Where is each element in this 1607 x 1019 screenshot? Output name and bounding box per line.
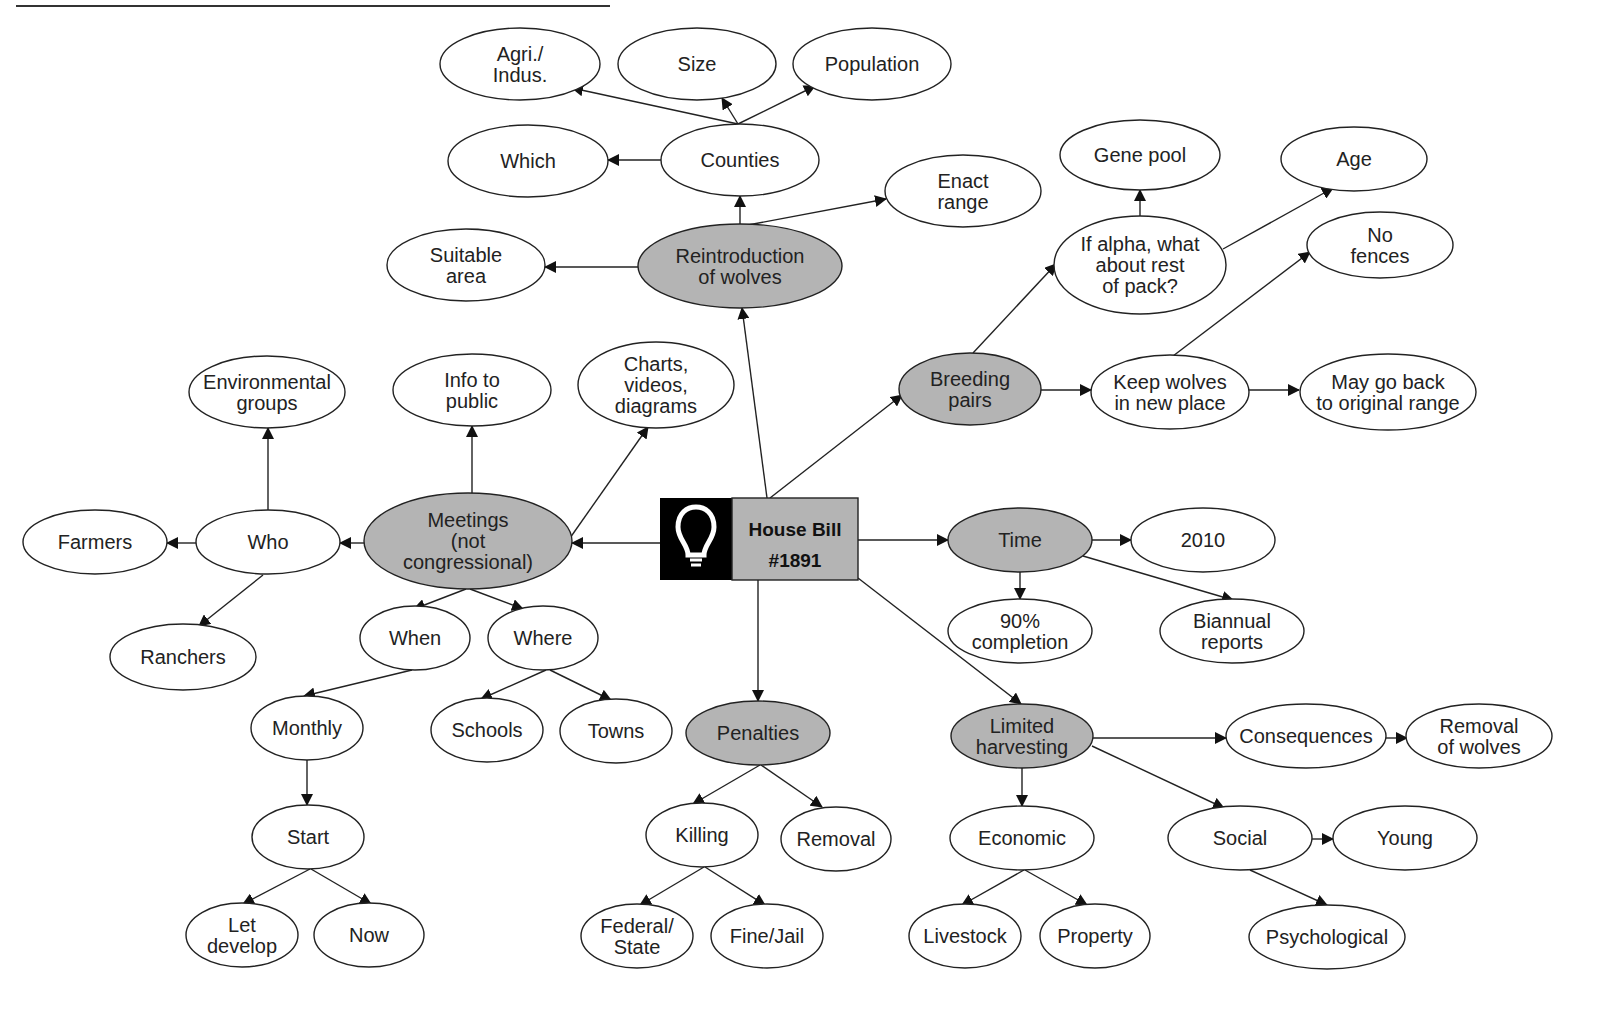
node-towns[interactable]: Towns	[560, 699, 672, 763]
node-breeding-pairs[interactable]: Breedingpairs	[899, 353, 1041, 425]
node-population[interactable]: Population	[793, 28, 951, 100]
node-label: Farmers	[58, 531, 132, 553]
edge-limited_harvesting-to-social	[1092, 746, 1224, 808]
node-label: Time	[998, 529, 1042, 551]
node-label: to original range	[1316, 392, 1459, 414]
node-label: Size	[678, 53, 717, 75]
node-killing[interactable]: Killing	[646, 803, 758, 867]
node-gene-pool[interactable]: Gene pool	[1060, 120, 1220, 190]
node-label: Environmental	[203, 371, 331, 393]
node-livestock[interactable]: Livestock	[909, 904, 1021, 968]
node-label: Federal/	[600, 915, 674, 937]
edge-start-to-let_develop	[243, 869, 310, 904]
node-label: Removal	[797, 828, 876, 850]
node-label: Biannual	[1193, 610, 1271, 632]
node-economic[interactable]: Economic	[950, 806, 1094, 870]
node-label: Keep wolves	[1113, 371, 1226, 393]
node-keep-wolves[interactable]: Keep wolvesin new place	[1091, 355, 1249, 429]
node-label: When	[389, 627, 441, 649]
node-label: Info to	[444, 369, 500, 391]
node-start[interactable]: Start	[252, 805, 364, 869]
node-ranchers[interactable]: Ranchers	[110, 624, 256, 690]
node-label: Removal	[1440, 715, 1519, 737]
node-time[interactable]: Time	[948, 508, 1092, 572]
edge-when-to-monthly	[304, 670, 412, 696]
edge-reintroduction-to-enact_range	[748, 199, 886, 225]
edges-layer	[167, 86, 1407, 905]
node-label: about rest	[1096, 254, 1185, 276]
node-if-alpha[interactable]: If alpha, whatabout restof pack?	[1054, 216, 1226, 314]
node-completion-90[interactable]: 90%completion	[948, 599, 1092, 663]
node-size[interactable]: Size	[618, 28, 776, 100]
node-label: State	[614, 936, 661, 958]
central-topic[interactable]: House Bill #1891	[660, 498, 858, 580]
node-no-fences[interactable]: Nofences	[1307, 212, 1453, 278]
node-removal-of-wolves[interactable]: Removalof wolves	[1406, 704, 1552, 768]
node-label: Livestock	[923, 925, 1007, 947]
node-limited-harvesting[interactable]: Limitedharvesting	[951, 704, 1093, 768]
edge-breeding_pairs-to-if_alpha	[973, 264, 1056, 353]
node-age[interactable]: Age	[1281, 127, 1427, 191]
node-label: Schools	[451, 719, 522, 741]
node-reintroduction[interactable]: Reintroductionof wolves	[638, 224, 842, 308]
node-info-to-public[interactable]: Info topublic	[393, 354, 551, 426]
node-label: Breeding	[930, 368, 1010, 390]
node-label: Suitable	[430, 244, 502, 266]
node-fine-jail[interactable]: Fine/Jail	[711, 904, 823, 968]
node-meetings[interactable]: Meetings(notcongressional)	[364, 493, 572, 589]
node-label: reports	[1201, 631, 1263, 653]
node-label: harvesting	[976, 736, 1068, 758]
node-who[interactable]: Who	[196, 510, 340, 574]
edge-counties-to-population	[738, 86, 815, 124]
node-y2010[interactable]: 2010	[1131, 508, 1275, 572]
edge-social-to-psychological	[1250, 870, 1327, 905]
node-let-develop[interactable]: Letdevelop	[186, 903, 298, 967]
node-penalties[interactable]: Penalties	[686, 701, 830, 765]
node-label: public	[446, 390, 498, 412]
edge-penalties-to-killing	[693, 765, 760, 804]
node-agri-indus[interactable]: Agri./Indus.	[440, 28, 600, 100]
edge-killing-to-fine_jail	[705, 867, 765, 905]
concept-map: Reintroductionof wolvesCountiesAgri./Ind…	[0, 0, 1607, 1019]
node-where[interactable]: Where	[488, 606, 598, 670]
node-removal[interactable]: Removal	[781, 807, 891, 871]
central-topic-title: House Bill	[749, 519, 842, 540]
node-counties[interactable]: Counties	[661, 124, 819, 196]
node-schools[interactable]: Schools	[431, 698, 543, 762]
node-label: If alpha, what	[1081, 233, 1200, 255]
edge-who-to-ranchers	[199, 575, 263, 626]
node-now[interactable]: Now	[314, 903, 424, 967]
node-label: area	[446, 265, 487, 287]
node-may-go-back[interactable]: May go backto original range	[1300, 354, 1476, 430]
node-charts-videos[interactable]: Charts,videos,diagrams	[578, 342, 734, 428]
edge-where-to-towns	[550, 670, 611, 700]
edge-house_bill-to-reintroduction	[742, 308, 767, 498]
node-label: pairs	[948, 389, 991, 411]
node-label: Penalties	[717, 722, 799, 744]
central-topic-number: #1891	[769, 550, 822, 571]
node-suitable-area[interactable]: Suitablearea	[387, 229, 545, 301]
node-federal-state[interactable]: Federal/State	[581, 904, 693, 968]
node-label: Consequences	[1239, 725, 1372, 747]
edge-penalties-to-removal	[761, 765, 822, 807]
node-environmental-groups[interactable]: Environmentalgroups	[189, 356, 345, 428]
node-social[interactable]: Social	[1168, 806, 1312, 870]
node-consequences[interactable]: Consequences	[1226, 704, 1386, 768]
node-label: Towns	[588, 720, 645, 742]
node-psychological[interactable]: Psychological	[1249, 905, 1405, 969]
node-label: Property	[1057, 925, 1133, 947]
node-enact-range[interactable]: Enactrange	[885, 155, 1041, 227]
node-label: Monthly	[272, 717, 342, 739]
node-which[interactable]: Which	[448, 125, 608, 197]
node-property[interactable]: Property	[1040, 904, 1150, 968]
node-label: Gene pool	[1094, 144, 1186, 166]
node-label: Indus.	[493, 64, 547, 86]
node-young[interactable]: Young	[1333, 806, 1477, 870]
node-when[interactable]: When	[360, 606, 470, 670]
node-biannual-reports[interactable]: Biannualreports	[1160, 599, 1304, 663]
node-farmers[interactable]: Farmers	[23, 510, 167, 574]
node-label: Enact	[937, 170, 989, 192]
edge-economic-to-property	[1025, 870, 1087, 905]
node-monthly[interactable]: Monthly	[251, 696, 363, 760]
node-label: diagrams	[615, 395, 697, 417]
